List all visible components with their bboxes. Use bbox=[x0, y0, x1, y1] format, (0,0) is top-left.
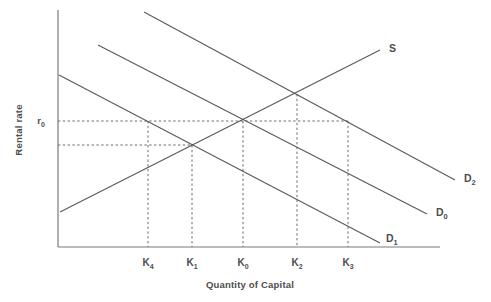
rate-labels-group: r0 bbox=[37, 115, 45, 128]
demand-curve-d0 bbox=[98, 45, 427, 214]
supply-curve-s bbox=[60, 50, 380, 212]
x-tick-label-k3: K3 bbox=[342, 257, 353, 270]
curve-label-d2: D2 bbox=[464, 172, 476, 187]
x-tick-label-k4: K4 bbox=[142, 257, 153, 270]
curve-label-d1: D1 bbox=[386, 232, 398, 247]
x-tick-label-k0: K0 bbox=[237, 257, 248, 270]
figure-canvas: S D2 D0 D1 r0 K4 K1 K0 K2 K3 Rental rate… bbox=[0, 0, 491, 302]
demand-curve-d2 bbox=[144, 12, 455, 180]
curve-label-d0: D0 bbox=[436, 206, 448, 221]
guide-lines-group bbox=[58, 94, 348, 247]
capital-rental-market-diagram: S D2 D0 D1 r0 K4 K1 K0 K2 K3 Rental rate… bbox=[0, 0, 491, 302]
x-tick-label-k1: K1 bbox=[186, 257, 197, 270]
demand-curve-d1 bbox=[59, 75, 380, 243]
curve-labels-group: S D2 D0 D1 bbox=[386, 42, 476, 247]
y-tick-label-r0: r0 bbox=[37, 115, 45, 128]
axes-group bbox=[58, 10, 440, 247]
x-tick-label-k2: K2 bbox=[291, 257, 302, 270]
curve-label-s: S bbox=[389, 42, 396, 54]
x-tick-labels-group: K4 K1 K0 K2 K3 bbox=[142, 257, 353, 270]
x-axis-title: Quantity of Capital bbox=[206, 279, 294, 290]
y-axis-title: Rental rate bbox=[13, 104, 24, 155]
